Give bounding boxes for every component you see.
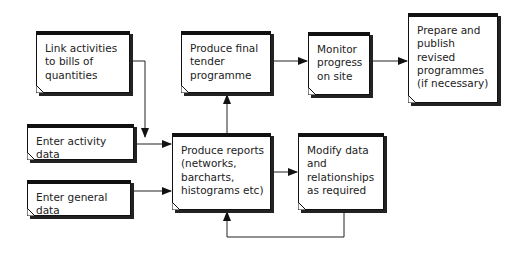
page-fold-icon — [27, 208, 35, 216]
node-link-activities: Link activities to bills of quantities — [36, 31, 130, 93]
page-fold-icon — [308, 87, 316, 95]
node-label: Monitor progress on site — [317, 43, 369, 83]
page-fold-icon — [36, 85, 44, 93]
page-fold-icon — [181, 85, 189, 93]
node-label: Produce final tender programme — [190, 42, 270, 82]
node-modify-data: Modify data and relationships as require… — [298, 133, 384, 210]
node-prepare-publish: Prepare and publish revised programmes (… — [408, 13, 498, 103]
node-label: Prepare and publish revised programmes (… — [417, 24, 497, 90]
node-label: Enter general data — [36, 191, 130, 218]
edge-link-to-reports — [133, 61, 145, 137]
page-fold-icon — [172, 202, 180, 210]
page-fold-icon — [27, 152, 35, 160]
page-fold-icon — [408, 95, 416, 103]
node-enter-activity-data: Enter activity data — [27, 124, 134, 160]
page-fold-icon — [298, 202, 306, 210]
node-enter-general-data: Enter general data — [27, 180, 131, 216]
node-label: Enter activity data — [36, 135, 133, 162]
node-label: Modify data and relationships as require… — [307, 144, 383, 197]
node-produce-final-tender: Produce final tender programme — [181, 31, 271, 93]
node-monitor-progress: Monitor progress on site — [308, 32, 370, 95]
node-produce-reports: Produce reports (networks, barcharts, hi… — [172, 133, 271, 210]
edge-modify-to-reports — [227, 212, 344, 237]
node-label: Produce reports (networks, barcharts, hi… — [181, 144, 270, 197]
node-label: Link activities to bills of quantities — [45, 42, 129, 82]
